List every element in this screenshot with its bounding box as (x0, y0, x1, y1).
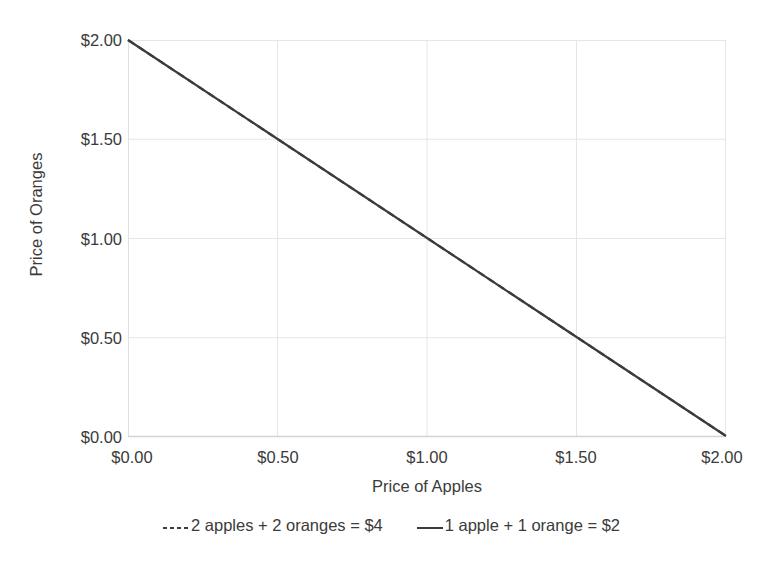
x-tick-label: $1.00 (367, 448, 487, 466)
legend-dashed-line-icon (163, 520, 189, 532)
legend-solid-line-icon (417, 520, 443, 532)
x-tick-label: $0.50 (218, 448, 338, 466)
plot-area (128, 40, 726, 437)
x-axis-ticks: $0.00 $0.50 $1.00 $1.50 $2.00 (0, 448, 783, 472)
y-tick-label: $2.00 (48, 32, 122, 49)
chart-legend: 2 apples + 2 oranges = $4 1 apple + 1 or… (0, 516, 783, 535)
y-tick-label: $0.50 (48, 330, 122, 347)
plot-svg (128, 40, 726, 437)
x-axis-title: Price of Apples (128, 477, 726, 496)
legend-label: 1 apple + 1 orange = $2 (445, 516, 620, 535)
x-tick-label: $2.00 (662, 448, 782, 466)
y-axis-title: Price of Oranges (27, 115, 46, 315)
y-axis-ticks: $2.00 $1.50 $1.00 $0.50 $0.00 (44, 0, 122, 562)
y-tick-label: $1.00 (48, 231, 122, 248)
y-tick-label: $0.00 (48, 429, 122, 446)
legend-item-1apple1orange[interactable]: 1 apple + 1 orange = $2 (417, 516, 620, 535)
y-tick-label: $1.50 (48, 131, 122, 148)
legend-item-2apples2oranges[interactable]: 2 apples + 2 oranges = $4 (163, 516, 383, 535)
chart-container: $2.00 $1.50 $1.00 $0.50 $0.00 $0.00 $0.5… (0, 0, 783, 562)
x-tick-label: $0.00 (72, 448, 192, 466)
x-tick-label: $1.50 (516, 448, 636, 466)
legend-label: 2 apples + 2 oranges = $4 (191, 516, 383, 535)
